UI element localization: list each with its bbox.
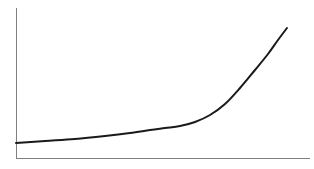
chart-figure: A smooth curve that is nearly flat on th… [0,0,314,169]
chart-background [0,0,314,169]
chart-canvas [0,0,314,169]
